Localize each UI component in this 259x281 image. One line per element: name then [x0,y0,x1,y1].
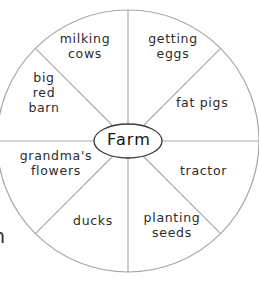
segment-label-grandmas-flowers: grandma's flowers [8,148,104,178]
segment-label-getting-eggs: getting eggs [131,31,215,61]
segment-label-ducks: ducks [62,213,124,228]
segment-label-tractor: tractor [180,163,250,178]
segment-label-fat-pigs: fat pigs [176,95,250,110]
hub-label: Farm [95,130,163,149]
segment-label-big-red-barn: big red barn [16,70,72,115]
farm-word-web-diagram: Farm milking cows getting eggs big red b… [0,0,259,281]
segment-label-planting-seeds: planting seeds [128,210,216,240]
clipped-text-fragment: n [0,226,5,246]
segment-label-milking-cows: milking cows [42,31,128,61]
